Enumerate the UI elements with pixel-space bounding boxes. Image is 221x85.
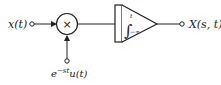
diagram-svg: x(t) × e−stu(t) ∫ t −∞ X(s, t) bbox=[0, 0, 221, 85]
integral-lower-limit: −∞ bbox=[130, 28, 140, 35]
input-label: x(t) bbox=[8, 18, 27, 31]
multiply-icon: × bbox=[62, 18, 71, 31]
input-terminal bbox=[30, 22, 34, 26]
output-terminal bbox=[180, 22, 184, 26]
kernel-terminal bbox=[65, 59, 69, 63]
output-label: X(s, t) bbox=[188, 18, 221, 31]
integrator-reset-bar bbox=[115, 5, 122, 42]
block-diagram: x(t) × e−stu(t) ∫ t −∞ X(s, t) bbox=[0, 0, 221, 85]
kernel-label: e−stu(t) bbox=[51, 67, 88, 79]
